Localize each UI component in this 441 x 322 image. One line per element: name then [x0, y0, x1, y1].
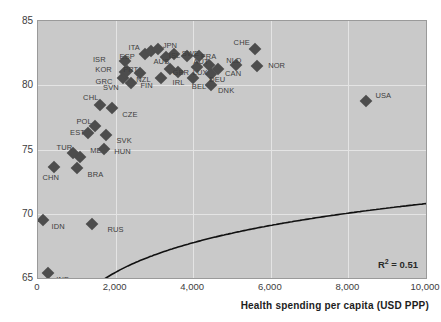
- x-tick-label: 6,000: [258, 281, 282, 292]
- x-tick-label: 2,000: [103, 281, 127, 292]
- y-tick-label: 80: [22, 79, 33, 90]
- x-tick-label: 8,000: [336, 281, 360, 292]
- y-tick-label: 70: [22, 207, 33, 218]
- r-squared-value: = 0.51: [389, 259, 418, 270]
- x-tick-label: 10,000: [410, 281, 439, 292]
- plot-area: R2 = 0.51 INDIDNRUSCHNBRAMEXTURHUNESTSVK…: [37, 20, 427, 279]
- y-tick-label: 65: [22, 272, 33, 283]
- gridline-vertical: [426, 21, 427, 278]
- trendline: [38, 21, 426, 278]
- x-tick-label: 4,000: [180, 281, 204, 292]
- y-tick-label: 85: [22, 15, 33, 26]
- x-axis-title: Health spending per capita (USD PPP): [241, 300, 429, 311]
- chart-root: 6570758085 R2 = 0.51 INDIDNRUSCHNBRAMEXT…: [0, 0, 441, 322]
- y-tick-label: 75: [22, 143, 33, 154]
- x-tick-label: 0: [34, 281, 39, 292]
- r-squared-annotation: R2 = 0.51: [378, 258, 418, 270]
- r-squared-letter: R: [378, 259, 385, 270]
- y-axis-tick-labels: 6570758085: [0, 0, 33, 322]
